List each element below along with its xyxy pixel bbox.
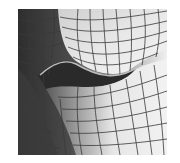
mesh-render [18, 9, 167, 155]
mesh-illustration [18, 9, 167, 155]
